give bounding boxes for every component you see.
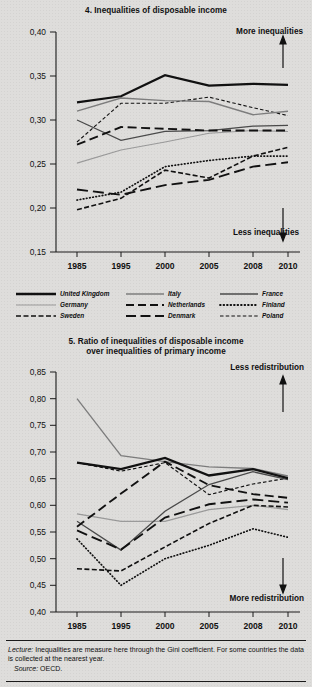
footer-notes: Lecture: Inequalities are measure here t…	[8, 645, 306, 673]
chart-4-series-group	[77, 75, 288, 210]
chart-4-series-united-kingdom	[77, 75, 288, 102]
footer-lecture-text: Inequalities are measure here through th…	[8, 646, 304, 662]
chart-5-ytick-0-50: 0,50	[30, 554, 47, 564]
chart-5-xtick-1985: 1985	[67, 621, 86, 631]
legend-label-france: France	[262, 290, 302, 297]
legend: United Kingdom Italy France Germany	[0, 288, 312, 321]
legend-label-denmark: Denmark	[168, 312, 202, 319]
chart-5-xtick-1995: 1995	[111, 621, 130, 631]
chart-4-panel: 4. Inequalities of disposable income Mor…	[0, 0, 312, 300]
chart-5-xtick-2008: 2008	[243, 621, 262, 631]
legend-row-2: Germany Netherlands Finland	[0, 299, 312, 310]
chart-4-ytick-0-15: 0,15	[30, 247, 47, 257]
legend-item-netherlands[interactable]: Netherlands	[112, 301, 202, 309]
legend-sample-italy	[125, 290, 165, 298]
chart-5-xtick-2010: 2010	[278, 621, 297, 631]
legend-row-1: United Kingdom Italy France	[0, 288, 312, 299]
legend-label-italy: Italy	[168, 290, 202, 297]
footer-divider-bottom	[6, 681, 306, 682]
legend-sample-france	[219, 290, 259, 298]
legend-sample-sweden	[15, 312, 57, 320]
legend-label-united-kingdom: United Kingdom	[60, 290, 112, 297]
chart-5-plot: 0,85 0,80 0,75 0,70 0,65 0,60 0,55 0,50 …	[0, 330, 312, 635]
chart-5-ytick-0-80: 0,80	[30, 394, 47, 404]
chart-4-xtick-2000: 2000	[155, 261, 174, 271]
chart-4-xtick-2010: 2010	[278, 261, 297, 271]
chart-4-series-sweden	[77, 147, 288, 209]
chart-4-xtick-1985: 1985	[67, 261, 86, 271]
footer-source-text: OECD.	[38, 665, 62, 672]
legend-item-united-kingdom[interactable]: United Kingdom	[0, 290, 112, 298]
chart-4-plot: 0,40 0,35 0,30 0,25 0,20 0,15 1985 1995 …	[0, 0, 312, 300]
legend-sample-denmark	[125, 312, 165, 320]
figure-page: 4. Inequalities of disposable income Mor…	[0, 0, 312, 687]
legend-item-finland[interactable]: Finland	[202, 301, 302, 309]
footer-divider-top	[6, 640, 306, 641]
chart-5-ytick-0-40: 0,40	[30, 607, 47, 617]
legend-item-sweden[interactable]: Sweden	[0, 312, 112, 320]
chart-5-panel: 5. Ratio of inequalities of disposable i…	[0, 330, 312, 635]
legend-label-netherlands: Netherlands	[168, 301, 202, 308]
legend-label-germany: Germany	[60, 301, 112, 308]
chart-4-series-finland	[77, 156, 288, 200]
legend-label-poland: Poland	[262, 312, 302, 319]
footer-source-label: Source:	[14, 665, 38, 672]
chart-4-series-germany	[77, 131, 288, 164]
chart-4-ytick-0-35: 0,35	[30, 71, 47, 81]
chart-4-ytick-0-25: 0,25	[30, 159, 47, 169]
chart-4-xtick-1995: 1995	[111, 261, 130, 271]
chart-5-ytick-0-70: 0,70	[30, 447, 47, 457]
legend-sample-united-kingdom	[15, 290, 57, 298]
chart-4-ytick-0-20: 0,20	[30, 203, 47, 213]
chart-5-ytick-0-55: 0,55	[30, 527, 47, 537]
legend-sample-poland	[219, 312, 259, 320]
chart-5-series-germany	[77, 505, 288, 521]
chart-5-xtick-2005: 2005	[199, 621, 218, 631]
legend-sample-finland	[219, 301, 259, 309]
legend-label-finland: Finland	[262, 301, 302, 308]
legend-item-italy[interactable]: Italy	[112, 290, 202, 298]
chart-4-ytick-0-40: 0,40	[30, 27, 47, 37]
chart-5-ytick-0-85: 0,85	[30, 367, 47, 377]
footer-lecture-label: Lecture:	[8, 646, 33, 653]
chart-5-series-group	[77, 399, 288, 586]
chart-5-xtick-2000: 2000	[155, 621, 174, 631]
legend-row-3: Sweden Denmark Poland	[0, 310, 312, 321]
chart-5-ytick-0-75: 0,75	[30, 420, 47, 430]
legend-item-denmark[interactable]: Denmark	[112, 312, 202, 320]
chart-5-ytick-0-65: 0,65	[30, 474, 47, 484]
chart-4-series-poland	[77, 97, 288, 142]
legend-item-france[interactable]: France	[202, 290, 302, 298]
chart-4-xtick-2008: 2008	[243, 261, 262, 271]
chart-4-series-italy	[77, 98, 288, 115]
legend-sample-germany	[15, 301, 57, 309]
footer-source: Source: OECD.	[14, 664, 306, 673]
chart-5-ytick-0-45: 0,45	[30, 580, 47, 590]
legend-item-germany[interactable]: Germany	[0, 301, 112, 309]
legend-label-sweden: Sweden	[60, 312, 112, 319]
footer-lecture: Lecture: Inequalities are measure here t…	[8, 645, 306, 664]
legend-sample-netherlands	[125, 301, 165, 309]
chart-5-ytick-0-60: 0,60	[30, 500, 47, 510]
chart-5-series-sweden	[77, 505, 288, 571]
chart-4-series-netherlands	[77, 127, 288, 145]
chart-4-ytick-0-30: 0,30	[30, 115, 47, 125]
chart-4-series-denmark	[77, 162, 288, 195]
legend-item-poland[interactable]: Poland	[202, 312, 302, 320]
chart-4-xtick-2005: 2005	[199, 261, 218, 271]
